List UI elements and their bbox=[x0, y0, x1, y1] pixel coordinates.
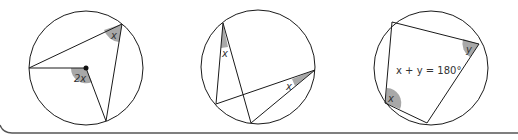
radius bbox=[86, 68, 106, 121]
circle bbox=[201, 10, 315, 124]
angle-y-label: y bbox=[465, 44, 473, 55]
equation-label: x + y = 180° bbox=[396, 65, 461, 76]
angle-label-b: x bbox=[285, 81, 292, 92]
centre-dot bbox=[84, 66, 89, 71]
circle-theorems-figure: 2x x x x x y x + y = 180° bbox=[0, 0, 518, 140]
diagram-angle-at-centre: 2x x bbox=[29, 11, 143, 125]
chord bbox=[223, 23, 251, 123]
diagram-cyclic-quadrilateral: x y x + y = 180° bbox=[374, 11, 488, 125]
angle-label-a: x bbox=[221, 48, 228, 59]
chord bbox=[216, 23, 223, 104]
chord bbox=[251, 70, 315, 123]
angle-x-label: x bbox=[387, 93, 394, 104]
chord bbox=[216, 70, 315, 104]
inscribed-angle-label: x bbox=[110, 30, 117, 41]
diagram-angles-same-segment: x x bbox=[201, 10, 315, 124]
frame-border bbox=[0, 125, 518, 133]
central-angle-label: 2x bbox=[74, 73, 86, 84]
